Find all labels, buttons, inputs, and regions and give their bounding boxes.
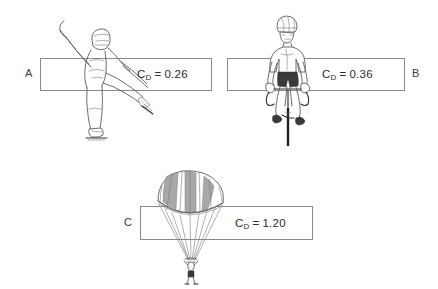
cd-value-b: 0.36: [349, 68, 373, 80]
cd-label-c: CD=1.20: [235, 217, 286, 231]
panel-letter-a: A: [25, 67, 33, 79]
panel-letter-c: C: [124, 216, 132, 228]
cd-label-b: CD=0.36: [322, 68, 373, 82]
drag-coefficient-figure: A CD=0.26: [0, 0, 438, 289]
parachutist-drawing: [152, 167, 230, 285]
panel-letter-b: B: [412, 67, 420, 79]
cyclist-drawing: [252, 12, 324, 148]
cd-label-a: CD=0.26: [137, 68, 188, 82]
cd-value-a: 0.26: [164, 68, 188, 80]
cd-value-c: 1.20: [262, 217, 286, 229]
cd-equals-b: =: [336, 68, 349, 80]
cd-symbol-b: C: [322, 68, 331, 80]
cd-symbol-a: C: [137, 68, 146, 80]
cd-symbol-c: C: [235, 217, 244, 229]
cd-equals-a: =: [151, 68, 164, 80]
cd-equals-c: =: [249, 217, 262, 229]
